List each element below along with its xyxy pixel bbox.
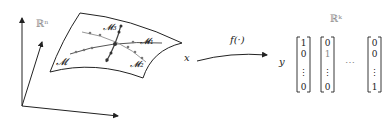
input-variable-x: x bbox=[184, 52, 190, 63]
vector-1-entry-2: 0 bbox=[301, 49, 307, 59]
output-variable-y: y bbox=[278, 56, 285, 67]
vector-1-entry-1: 1 bbox=[301, 38, 307, 48]
manifold-label-m2: 𝓜₂ bbox=[130, 59, 144, 69]
vectors-ellipsis: ⋯ bbox=[345, 57, 355, 68]
input-space-label: ℝⁿ bbox=[36, 18, 49, 29]
one-hot-vector-k: 0 0 ⋮ 1 bbox=[368, 37, 381, 92]
vector-1-entry-last: 0 bbox=[301, 82, 307, 92]
vector-2-entry-2: 1 bbox=[325, 49, 331, 59]
vector-k-entry-1: 0 bbox=[372, 38, 378, 48]
one-hot-vector-2: 0 1 ⋮ 0 bbox=[321, 37, 334, 92]
diagram-canvas: ℝⁿ 𝓜 𝓜₁ 𝓜₂ 𝓜₃ x f(·) y ℝᵏ bbox=[0, 0, 390, 121]
vector-1-entry-dots: ⋮ bbox=[299, 68, 308, 78]
axis-horizontal-arrow bbox=[22, 106, 118, 116]
output-space-label: ℝᵏ bbox=[330, 13, 342, 24]
vector-k-entry-dots: ⋮ bbox=[370, 68, 379, 78]
mapping-arrow bbox=[197, 54, 267, 61]
vector-k-entry-last: 1 bbox=[372, 82, 378, 92]
axis-depth-arrow bbox=[22, 42, 42, 106]
manifold-label-m1: 𝓜₁ bbox=[140, 36, 154, 46]
mapping-label: f(·) bbox=[229, 34, 245, 45]
one-hot-vector-1: 1 0 ⋮ 0 bbox=[297, 37, 310, 92]
vector-2-entry-dots: ⋮ bbox=[323, 68, 332, 78]
vector-2-entry-1: 0 bbox=[325, 38, 331, 48]
vector-k-entry-2: 0 bbox=[372, 49, 378, 59]
vector-2-entry-last: 0 bbox=[325, 82, 331, 92]
manifold-label-m3: 𝓜₃ bbox=[103, 22, 117, 32]
